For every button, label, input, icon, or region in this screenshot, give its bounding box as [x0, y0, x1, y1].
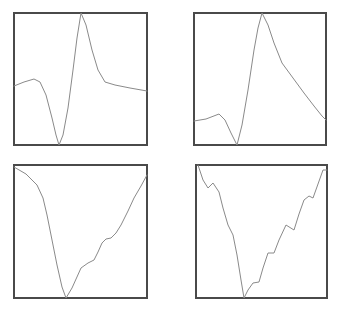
- chart-grid: [0, 0, 341, 310]
- line-series: [14, 13, 147, 145]
- line-series: [14, 167, 147, 298]
- panel-frame: [196, 165, 327, 298]
- panel-bottom-left: [14, 165, 147, 298]
- panel-bottom-right: [196, 165, 327, 298]
- panel-frame: [194, 13, 326, 145]
- panel-frame: [14, 165, 147, 298]
- line-series: [194, 13, 326, 145]
- line-series: [198, 165, 327, 298]
- panel-top-left: [14, 13, 147, 145]
- panel-top-right: [194, 13, 326, 145]
